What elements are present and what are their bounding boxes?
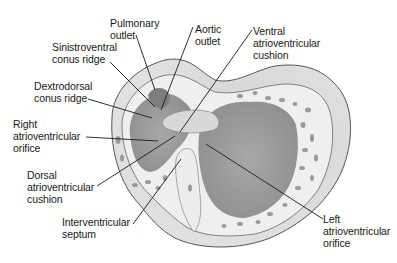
label-left-atrioventricular-orifice: Left atrioventricular orifice bbox=[323, 213, 390, 249]
label-interventricular-septum: Interventricular septum bbox=[62, 216, 130, 240]
label-aortic-outlet: Aortic outlet bbox=[195, 23, 221, 47]
label-dextrodorsal-conus-ridge: Dextrodorsal conus ridge bbox=[34, 80, 92, 104]
label-sinistroventral-conus-ridge: Sinistroventral conus ridge bbox=[52, 41, 117, 65]
label-dorsal-atrioventricular-cushion: Dorsal atrioventricular cushion bbox=[27, 169, 94, 205]
label-right-atrioventricular-orifice: Right atrioventricular orifice bbox=[13, 118, 80, 154]
label-pulmonary-outlet: Pulmonary outlet bbox=[110, 17, 159, 41]
label-ventral-atrioventricular-cushion: Ventral atrioventricular cushion bbox=[253, 25, 320, 61]
